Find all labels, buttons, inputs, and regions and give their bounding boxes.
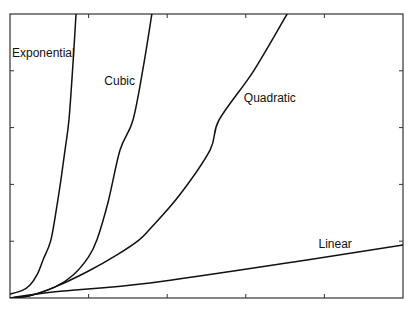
label-linear: Linear: [319, 237, 352, 251]
curve-labels: ExponentialCubicQuadraticLinear: [12, 46, 352, 252]
curve-linear: [10, 245, 403, 298]
line-chart: ExponentialCubicQuadraticLinear: [0, 0, 418, 319]
label-cubic: Cubic: [104, 74, 135, 88]
label-quadratic: Quadratic: [244, 91, 296, 105]
label-exponential: Exponential: [12, 46, 75, 60]
